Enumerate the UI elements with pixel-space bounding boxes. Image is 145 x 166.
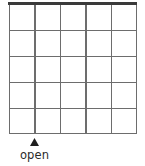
lattice-open-boundary-figure: open [0,0,145,166]
grid-cell [60,4,85,30]
grid-cell [111,30,136,56]
grid-cell [111,4,136,30]
grid-cell [111,82,136,108]
grid-cell [34,82,59,108]
grid-cell [60,82,85,108]
grid-cell [111,56,136,82]
grid-cell [9,4,34,30]
grid-horizontal-line [9,82,136,83]
grid-cell [34,56,59,82]
grid-cell [9,30,34,56]
grid-cell [9,56,34,82]
grid-cell [9,82,34,108]
up-triangle-icon [30,138,39,146]
grid-cell [34,108,59,134]
grid-cell [85,30,110,56]
grid-cell [85,4,110,30]
grid-horizontal-line [9,56,136,57]
grid-cell-layer [9,4,136,134]
grid-vertical-line [136,4,137,134]
grid-vertical-line [85,4,86,134]
lattice-grid [9,4,136,134]
grid-cell [85,108,110,134]
open-label: open [0,148,69,162]
grid-horizontal-line [9,133,136,134]
grid-vertical-line [9,4,10,134]
grid-cell [85,82,110,108]
open-boundary-edge [8,2,137,5]
grid-cell [60,56,85,82]
grid-vertical-line [60,4,61,134]
grid-cell [85,56,110,82]
grid-cell [34,4,59,30]
grid-cell [9,108,34,134]
grid-horizontal-line [9,108,136,109]
grid-vertical-line [111,4,112,134]
grid-cell [111,108,136,134]
grid-vertical-line [34,4,35,134]
grid-horizontal-line [9,30,136,31]
grid-cell [60,108,85,134]
grid-cell [60,30,85,56]
grid-cell [34,30,59,56]
